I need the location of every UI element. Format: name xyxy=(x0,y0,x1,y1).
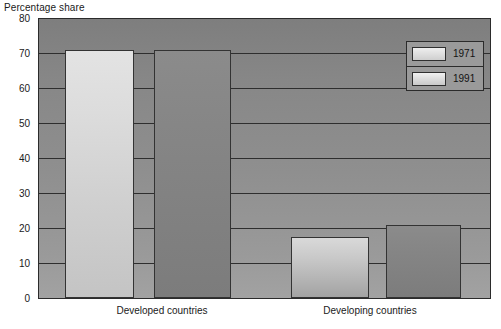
legend-item-1991[interactable]: 1991 xyxy=(407,66,483,90)
bar-developed-1971 xyxy=(65,50,134,298)
plot-area: 1971 1991 xyxy=(38,18,491,299)
y-tick-label-30: 30 xyxy=(2,188,30,199)
y-tick-label-10: 10 xyxy=(2,258,30,269)
legend-swatch-1971 xyxy=(412,47,446,61)
y-axis-title: Percentage share xyxy=(4,2,85,13)
bar-developed-1991 xyxy=(154,50,231,298)
category-label-developed: Developed countries xyxy=(92,305,232,316)
y-tick-label-20: 20 xyxy=(2,223,30,234)
bar-chart: Percentage share 80 70 60 50 40 30 20 10… xyxy=(0,0,501,329)
y-tick-label-0: 0 xyxy=(2,293,30,304)
legend-swatch-1991 xyxy=(412,72,446,86)
y-tick-label-80: 80 xyxy=(2,13,30,24)
y-tick-label-60: 60 xyxy=(2,83,30,94)
y-tick-label-70: 70 xyxy=(2,48,30,59)
y-tick-label-50: 50 xyxy=(2,118,30,129)
bar-developing-1971 xyxy=(291,237,369,298)
legend-item-1971[interactable]: 1971 xyxy=(407,42,483,66)
legend-label-1991: 1991 xyxy=(453,74,475,84)
bar-developing-1991 xyxy=(386,225,461,298)
legend: 1971 1991 xyxy=(406,41,484,91)
category-label-developing: Developing countries xyxy=(295,305,445,316)
y-tick-label-40: 40 xyxy=(2,153,30,164)
legend-label-1971: 1971 xyxy=(453,49,475,59)
